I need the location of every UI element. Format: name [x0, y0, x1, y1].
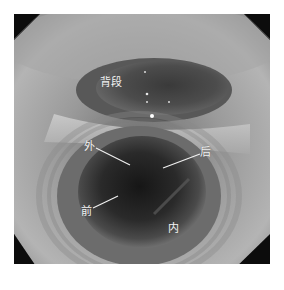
label-anterior: 前 [81, 206, 92, 218]
label-medial: 内 [168, 223, 179, 235]
endoscopic-scene [14, 14, 270, 264]
label-superior-segment: 背段 [100, 77, 122, 89]
endoscopic-image [14, 14, 270, 264]
label-lateral: 外 [84, 141, 95, 153]
label-posterior: 后 [200, 147, 211, 159]
